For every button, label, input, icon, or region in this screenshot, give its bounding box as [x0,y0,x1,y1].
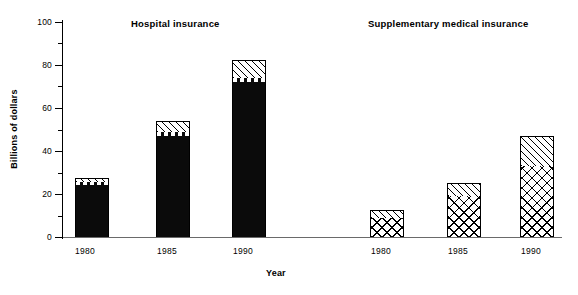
y-tick-30 [58,173,63,174]
bar-hospital-insurance-1990 [232,60,266,237]
x-tick-label-hospital-1990: 1990 [220,246,266,256]
bar-supplementary-medical-insurance-1980 [370,210,404,237]
y-tick-70 [58,86,63,87]
y-tick-100 [55,22,63,23]
y-tick-label-20: 20 [24,190,52,199]
y-tick-40 [55,151,63,152]
group-title-supplementary-medical-insurance: Supplementary medical insurance [368,18,528,29]
y-tick-80 [55,65,63,66]
bar-segment-solid [232,82,266,237]
y-tick-10 [58,216,63,217]
x-tick-label-hospital-1985: 1985 [144,246,190,256]
bar-segment-diagonal [447,183,481,196]
chart-figure: Hospital insurance Supplementary medical… [0,0,578,295]
bar-segment-diagonal [156,121,190,132]
bar-segment-diagonal [75,178,109,182]
bar-segment-crosshatch [370,218,404,237]
bar-segment-diagonal [520,136,554,166]
x-axis-title: Year [266,268,286,278]
bar-supplementary-medical-insurance-1985 [447,183,481,237]
x-tick-label-smi-1990: 1990 [508,246,554,256]
bar-hospital-insurance-1980 [75,178,109,237]
bar-segment-crosshatch [520,166,554,237]
y-tick-label-80: 80 [24,61,52,70]
y-tick-label-100: 100 [24,18,52,27]
bar-supplementary-medical-insurance-1990 [520,136,554,237]
x-tick-label-smi-1985: 1985 [435,246,481,256]
y-tick-0 [55,237,63,238]
group-title-hospital-insurance: Hospital insurance [131,18,220,29]
bar-segment-dashed [75,182,109,185]
y-tick-label-0: 0 [24,233,52,242]
y-axis-tick-labels: 100 80 60 40 20 0 [18,0,52,295]
y-tick-90 [58,43,63,44]
y-tick-20 [55,194,63,195]
bar-segment-dashed [156,132,190,136]
y-tick-label-40: 40 [24,147,52,156]
y-tick-50 [58,130,63,131]
y-tick-60 [55,108,63,109]
bar-hospital-insurance-1985 [156,121,190,237]
y-tick-label-60: 60 [24,104,52,113]
x-axis-line [62,237,562,238]
bar-segment-crosshatch [447,196,481,237]
bar-segment-diagonal [370,210,404,218]
x-tick-label-hospital-1980: 1980 [62,246,108,256]
x-tick-label-smi-1980: 1980 [358,246,404,256]
bar-segment-solid [156,136,190,237]
bar-segment-solid [75,185,109,237]
bar-segment-diagonal [232,60,266,78]
bar-segment-dashed [232,78,266,82]
